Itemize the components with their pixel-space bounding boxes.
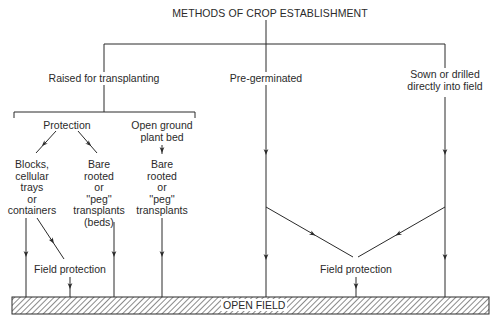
open-ground-line-1: Open ground xyxy=(122,120,202,132)
bare-beds-line: (beds) xyxy=(67,217,131,229)
diagram-title: METHODS OF CROP ESTABLISHMENT xyxy=(143,8,397,20)
open-bare-line: Bare xyxy=(130,159,194,171)
open-bare-label: Bare rooted or ''peg'' transplants xyxy=(130,159,194,217)
sown-line-2: directly into field xyxy=(385,81,497,93)
sown-line-1: Sown or drilled xyxy=(385,69,497,81)
open-field-label: OPEN FIELD xyxy=(221,299,287,311)
open-ground-line-2: plant bed xyxy=(122,132,202,144)
field-protection-right: Field protection xyxy=(316,264,396,276)
raised-label: Raised for transplanting xyxy=(38,73,170,85)
field-protection-left: Field protection xyxy=(30,264,110,276)
pregerminated-label: Pre-germinated xyxy=(226,73,306,85)
protection-label: Protection xyxy=(30,120,104,132)
blocks-line: Blocks, xyxy=(2,159,62,171)
open-ground-label: Open ground plant bed xyxy=(122,120,202,143)
sown-label: Sown or drilled directly into field xyxy=(385,69,497,92)
bare-beds-label: Bare rooted or ''peg'' transplants (beds… xyxy=(67,159,131,229)
bare-beds-line: Bare xyxy=(67,159,131,171)
blocks-label: Blocks, cellular trays or containers xyxy=(2,159,62,217)
blocks-line: containers xyxy=(2,205,62,217)
open-bare-line: transplants xyxy=(130,205,194,217)
